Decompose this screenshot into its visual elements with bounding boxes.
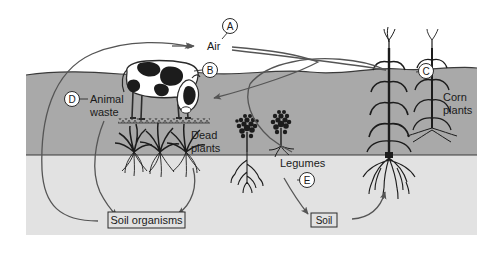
- nitrogen-cycle-diagram: Soil organisms Soil Air Animal waste Dea…: [0, 0, 500, 262]
- soil-label: Soil: [316, 215, 333, 226]
- key-letter-B-text: B: [207, 65, 214, 76]
- dead-plants-label-line2: plants: [191, 142, 221, 154]
- key-letter-D-text: D: [68, 94, 75, 105]
- key-letter-E-text: E: [304, 175, 311, 186]
- diagram-canvas: Soil organisms Soil Air Animal waste Dea…: [0, 0, 500, 262]
- boxed-label-soil: Soil: [311, 213, 337, 227]
- boxed-label-soil-organisms: Soil organisms: [108, 212, 185, 228]
- key-letter-A-text: A: [227, 21, 234, 32]
- key-letter-C-text: C: [422, 66, 429, 77]
- corn-plants-label-line1: Corn: [443, 91, 467, 103]
- soil-organisms-label: Soil organisms: [110, 214, 183, 226]
- animal-waste-strip: [118, 118, 210, 123]
- corn-plants-label-line2: plants: [443, 104, 473, 116]
- dead-plants-label-line1: Dead: [191, 129, 217, 141]
- legumes-label: Legumes: [280, 157, 326, 169]
- air-label: Air: [207, 40, 221, 52]
- key-letter-A: A: [222, 19, 238, 40]
- animal-waste-label-line1: Animal: [90, 93, 124, 105]
- animal-waste-label-line2: waste: [89, 106, 119, 118]
